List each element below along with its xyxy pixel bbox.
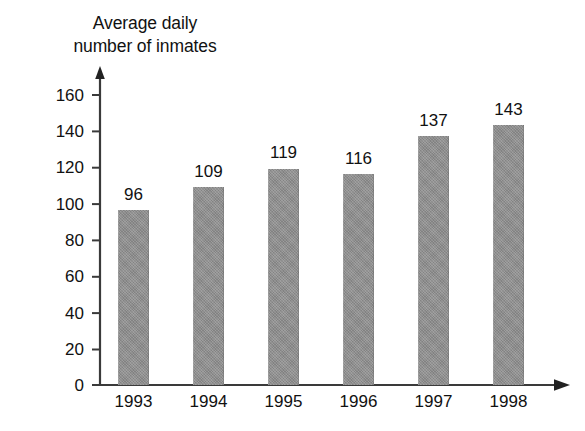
- x-axis-label-1994: 1994: [171, 393, 247, 410]
- x-axis-label-1998: 1998: [471, 393, 547, 410]
- x-axis-label-1993: 1993: [96, 393, 172, 410]
- x-axis-label-1996: 1996: [321, 393, 397, 410]
- y-axis-arrowhead: [95, 66, 105, 79]
- bar-1995: [268, 169, 299, 386]
- bar-value-1998: 143: [479, 101, 539, 118]
- y-axis-label-80: 80: [38, 232, 84, 249]
- bar-value-1996: 116: [329, 150, 389, 167]
- y-axis-tick-labels: 160 140 120 100 80 60 40 20 0: [38, 0, 84, 431]
- x-axis-arrowhead: [554, 379, 570, 391]
- y-axis-label-160: 160: [38, 87, 84, 104]
- x-axis-label-1995: 1995: [246, 393, 322, 410]
- bar-value-1994: 109: [179, 163, 239, 180]
- y-axis-label-40: 40: [38, 305, 84, 322]
- bar-value-1995: 119: [254, 144, 314, 161]
- bar-1997: [418, 136, 449, 385]
- bar-1993: [118, 210, 149, 385]
- y-axis-label-120: 120: [38, 159, 84, 176]
- y-axis-label-0: 0: [38, 377, 84, 394]
- bar-1994: [193, 187, 224, 385]
- y-axis-label-20: 20: [38, 341, 84, 358]
- bar-chart: Average daily number of inmates: [0, 0, 585, 431]
- bar-value-1993: 96: [104, 186, 164, 203]
- y-axis-ticks: [92, 95, 100, 385]
- bar-value-1997: 137: [404, 112, 464, 129]
- x-axis-label-1997: 1997: [396, 393, 472, 410]
- bar-1998: [493, 125, 524, 385]
- bar-1996: [343, 174, 374, 385]
- y-axis-label-100: 100: [38, 196, 84, 213]
- y-axis-label-140: 140: [38, 123, 84, 140]
- y-axis-label-60: 60: [38, 268, 84, 285]
- plot-area: 160 140 120 100 80 60 40 20 0 96 109 119…: [0, 0, 585, 431]
